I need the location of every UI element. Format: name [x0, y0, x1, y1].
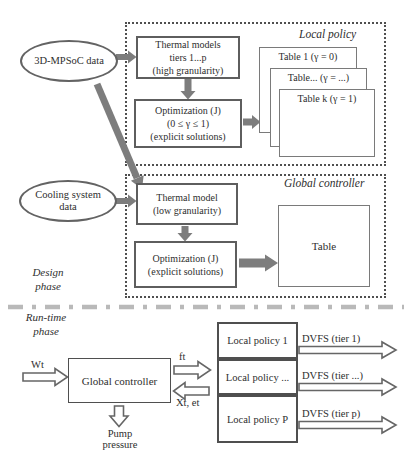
thermal-models-line3: (high granularity) [153, 64, 224, 77]
local-policy-1-box: Local policy 1 [217, 322, 298, 359]
thermal-model-line2: (low granularity) [153, 204, 221, 217]
dvfs-tier1-label: DVFS (tier 1) [302, 333, 360, 344]
cooling-data-line1: Cooling system [35, 189, 101, 200]
mpsoc-data-ellipse: 3D-MPSoC data [20, 40, 118, 82]
cooling-data-label: Cooling system data [35, 189, 101, 213]
optimization-local-line2: (0 ≤ γ ≤ 1) [167, 117, 209, 130]
thermal-models-box: Thermal models tiers 1...p (high granula… [136, 36, 240, 79]
pump-line2: pressure [103, 439, 138, 450]
optimization-box-global: Optimization (J) (explicit solutions) [134, 241, 237, 288]
arrow-dvfs-tier1 [299, 342, 396, 358]
global-controller-region-title: Global controller [284, 177, 364, 189]
dvfs-tier-dots-label: DVFS (tier ...) [302, 370, 363, 381]
arrow-wt-input [23, 369, 68, 386]
xt-et-label: Xt, et [176, 397, 199, 408]
cooling-data-line2: data [59, 201, 77, 212]
design-phase-label: Design phase [18, 266, 78, 293]
arrow-ft-output [174, 362, 211, 379]
runtime-global-controller-label: Global controller [82, 375, 157, 387]
local-policy-p-label: Local policy P [227, 414, 288, 425]
optimization-global-line1: Optimization (J) [153, 252, 219, 265]
design-phase-line1: Design [32, 266, 63, 278]
runtime-global-controller-box: Global controller [68, 358, 171, 403]
wt-label: Wt [31, 359, 44, 370]
cooling-data-ellipse: Cooling system data [19, 180, 117, 222]
local-policy-region-title: Local policy [299, 28, 356, 40]
table-dots-label: Table... (γ = ...) [271, 69, 366, 84]
table-stack-front: Table k (γ = 1) [279, 89, 375, 157]
optimization-local-line3: (explicit solutions) [150, 130, 225, 143]
optimization-box-local: Optimization (J) (0 ≤ γ ≤ 1) (explicit s… [134, 99, 242, 148]
global-table-label: Table [312, 240, 336, 252]
mpsoc-data-label: 3D-MPSoC data [34, 55, 104, 67]
thermal-model-box: Thermal model (low granularity) [136, 183, 238, 225]
global-table-box: Table [278, 205, 370, 287]
arrow-pump-pressure [110, 406, 128, 427]
local-policy-p-box: Local policy P [217, 395, 298, 443]
thermal-model-line1: Thermal model [156, 191, 217, 204]
local-policy-dots-label: Local policy ... [226, 372, 289, 383]
dvfs-tierp-label: DVFS (tier p) [302, 408, 360, 419]
thermal-models-line2: tiers 1...p [169, 51, 206, 64]
arrow-dvfs-tierp [299, 417, 396, 433]
table1-label: Table 1 (γ = 0) [260, 48, 356, 63]
local-policy-1-label: Local policy 1 [227, 335, 288, 346]
runtime-phase-line2: phase [33, 325, 59, 337]
runtime-phase-label: Run-time phase [14, 311, 78, 338]
ft-label: ft [179, 351, 185, 362]
design-phase-line2: phase [35, 280, 61, 292]
optimization-local-line1: Optimization (J) [155, 104, 221, 117]
local-policy-dots-box: Local policy ... [217, 359, 298, 395]
pump-line1: Pump [108, 428, 133, 439]
pump-pressure-label: Pump pressure [88, 428, 152, 450]
thermal-management-diagram: Local policy Global controller 3D-MPSoC … [0, 0, 405, 476]
optimization-global-line2: (explicit solutions) [148, 265, 223, 278]
thermal-models-line1: Thermal models [155, 38, 220, 51]
runtime-phase-line1: Run-time [26, 311, 66, 323]
arrow-dvfs-tier-dots [299, 379, 396, 395]
tablek-label: Table k (γ = 1) [280, 90, 374, 105]
